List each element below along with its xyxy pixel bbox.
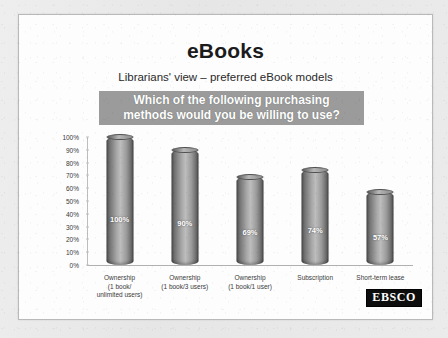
y-axis-tick-label: 10% <box>66 249 79 256</box>
bar-group[interactable]: 90%Ownership(1 book/3 users) <box>152 137 217 265</box>
y-axis-tick-mark <box>86 265 89 266</box>
y-axis-tick-mark <box>86 149 89 150</box>
bar-top-ellipse <box>171 147 198 153</box>
y-axis-tick-label: 90% <box>66 146 79 153</box>
y-axis-tick-mark <box>86 213 89 214</box>
bar-value-label: 100% <box>110 215 129 224</box>
y-axis-tick-label: 50% <box>66 198 79 205</box>
bar-value-label: 90% <box>177 219 192 228</box>
y-axis-tick-mark <box>86 175 89 176</box>
bar-group[interactable]: 74%Subscription <box>283 137 348 265</box>
bar-group[interactable]: 57%Short-term lease <box>348 137 413 265</box>
bar-value-label: 57% <box>373 233 388 242</box>
y-axis-tick-mark <box>86 252 89 253</box>
y-axis-tick-label: 20% <box>66 236 79 243</box>
y-axis-tick-label: 0% <box>70 262 79 269</box>
y-axis-tick-mark <box>86 137 89 138</box>
bar-value-label: 74% <box>308 226 323 235</box>
y-axis-tick-label: 100% <box>62 134 79 141</box>
y-axis-tick-label: 30% <box>66 223 79 230</box>
bar[interactable]: 69% <box>236 177 263 265</box>
y-axis-tick-mark <box>86 188 89 189</box>
y-axis-labels: 100%90%80%70%60%50%40%30%20%10%0% <box>47 133 83 269</box>
y-axis-tick-label: 40% <box>66 210 79 217</box>
y-axis-tick-label: 60% <box>66 185 79 192</box>
question-banner-line-1: Which of the following purchasing <box>123 93 340 108</box>
question-banner-text: Which of the following purchasing method… <box>123 93 340 123</box>
bar-chart: 100%90%80%70%60%50%40%30%20%10%0% 100%Ow… <box>47 133 415 288</box>
x-axis-category-line: (1 book/1 user) <box>212 283 288 292</box>
y-axis-tick-mark <box>86 162 89 163</box>
bar[interactable]: 57% <box>367 192 394 265</box>
bar-value-label: 69% <box>242 228 257 237</box>
bar[interactable]: 90% <box>171 150 198 265</box>
page-title: eBooks <box>19 39 432 63</box>
plot-area: 100%Ownership(1 book/unlimited users)90%… <box>87 137 413 265</box>
bar-top-ellipse <box>367 189 394 195</box>
question-banner-line-2: methods would you be willing to use? <box>123 108 340 123</box>
y-axis-tick-mark <box>86 239 89 240</box>
bar[interactable]: 74% <box>302 170 329 265</box>
x-axis-line <box>87 265 413 266</box>
y-axis-tick-mark <box>86 226 89 227</box>
y-axis-tick-mark <box>86 201 89 202</box>
bar[interactable]: 100% <box>106 137 133 265</box>
slide-subtitle: Librarians' view – preferred eBook model… <box>19 71 432 83</box>
x-axis-category-line: unlimited users) <box>82 291 158 300</box>
x-axis-category-line: Short-term lease <box>342 274 418 283</box>
bar-top-ellipse <box>302 167 329 173</box>
bar-top-ellipse <box>236 174 263 180</box>
question-banner: Which of the following purchasing method… <box>99 91 364 125</box>
y-axis-tick-label: 70% <box>66 172 79 179</box>
bar-group[interactable]: 100%Ownership(1 book/unlimited users) <box>87 137 152 265</box>
y-axis-tick-label: 80% <box>66 159 79 166</box>
bar-group[interactable]: 69%Ownership(1 book/1 user) <box>217 137 282 265</box>
presentation-slide: eBooks Librarians' view – preferred eBoo… <box>18 14 433 320</box>
bar-top-ellipse <box>106 134 133 140</box>
x-axis-category-label: Short-term lease <box>342 274 418 283</box>
ebsco-logo: EBSCO <box>366 289 422 307</box>
